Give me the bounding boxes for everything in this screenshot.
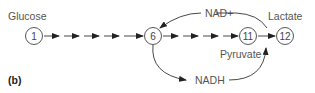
panel-label: (b) <box>8 74 21 86</box>
node-11: 11 <box>240 28 257 45</box>
node-12: 12 <box>277 28 294 45</box>
nadh-arrow-left <box>153 45 186 80</box>
glucose-label: Glucose <box>8 10 47 22</box>
svg-text:11: 11 <box>243 31 254 42</box>
node-6: 6 <box>145 28 162 45</box>
pyruvate-label: Pyruvate <box>220 48 262 60</box>
nadh-label: NADH <box>195 74 225 86</box>
svg-text:6: 6 <box>150 31 156 42</box>
lactate-label: Lactate <box>268 10 303 22</box>
node-1: 1 <box>26 28 43 45</box>
svg-text:12: 12 <box>279 31 291 42</box>
glycolysis-diagram: Glucose Lactate Pyruvate NAD+ NADH (b) 1… <box>0 0 315 93</box>
svg-text:1: 1 <box>31 31 37 42</box>
